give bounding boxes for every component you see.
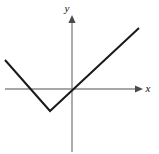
- figure-background: [0, 0, 159, 154]
- y-axis-label: y: [64, 2, 70, 14]
- x-axis-label: x: [145, 82, 151, 94]
- graph-figure: x y: [0, 0, 159, 154]
- coordinate-plane-svg: x y: [0, 0, 159, 154]
